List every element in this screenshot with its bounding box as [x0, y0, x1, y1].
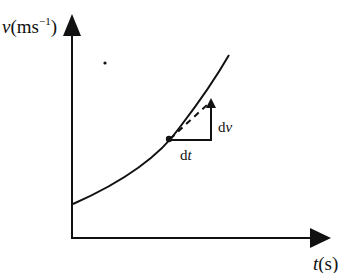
velocity-time-graph: v(ms−1) t(s) dt dv: [0, 0, 338, 273]
stray-dot: [103, 61, 106, 64]
x-axis-arrow-icon: [310, 228, 331, 248]
y-axis-label: v(ms−1): [2, 15, 57, 38]
dv-arrow-icon: [206, 98, 216, 108]
dt-label: dt: [180, 147, 193, 163]
y-axis: [63, 14, 81, 239]
velocity-curve: [73, 55, 229, 204]
dv-label: dv: [218, 119, 233, 135]
x-axis-label: t(s): [313, 253, 338, 273]
x-axis: [71, 228, 331, 248]
y-axis-arrow-icon: [63, 14, 81, 36]
